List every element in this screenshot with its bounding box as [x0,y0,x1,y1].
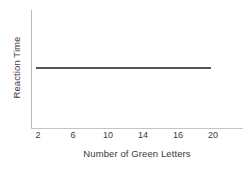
y-axis-title: Reaction Time [11,18,22,118]
x-ticklabel-3: 14 [131,130,155,140]
x-axis-title: Number of Green Letters [31,148,243,159]
x-ticklabel-0: 2 [26,130,50,140]
chart-screenshot: Reaction Time 2 6 10 14 16 20 Number of … [0,0,249,174]
x-ticklabel-5: 20 [201,130,225,140]
x-axis-ticklabels: 2 6 10 14 16 20 [31,130,243,144]
x-axis-line [31,128,243,129]
x-ticklabel-2: 10 [96,130,120,140]
x-ticklabel-4: 16 [166,130,190,140]
x-ticklabel-1: 6 [61,130,85,140]
plot-area [31,10,243,128]
data-series-line [36,67,211,69]
